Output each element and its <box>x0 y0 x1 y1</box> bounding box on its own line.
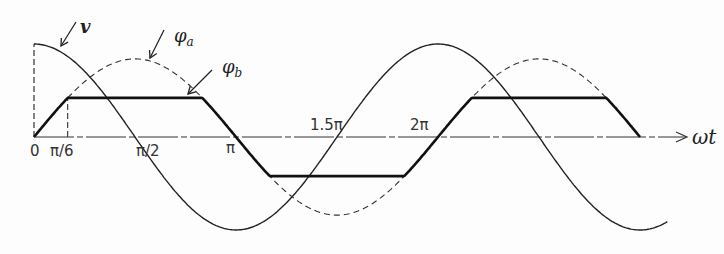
annotation-v-label: v <box>80 16 91 37</box>
x-tick-label: 2π <box>410 116 429 134</box>
x-axis-label: ωt <box>692 125 717 149</box>
x-tick-label: π/6 <box>50 142 74 160</box>
waveform-plot: ωt 0π/6π/2π1.5π2πvφaφb <box>0 0 724 254</box>
x-tick-label: 1.5π <box>310 116 343 134</box>
x-tick-label: π <box>226 139 235 157</box>
annotation-phi-b-arrow-icon <box>188 70 212 94</box>
x-tick-label: 0 <box>30 142 40 160</box>
x-tick-label: π/2 <box>136 142 160 160</box>
annotation-phi-a-label: φa <box>174 25 194 49</box>
waveform-diagram: ωt 0π/6π/2π1.5π2πvφaφb <box>0 0 724 254</box>
annotation-phi-b-label: φb <box>222 56 242 80</box>
annotation-phi-a-arrow-icon <box>150 30 164 58</box>
annotation-v-arrow-icon <box>61 22 76 46</box>
